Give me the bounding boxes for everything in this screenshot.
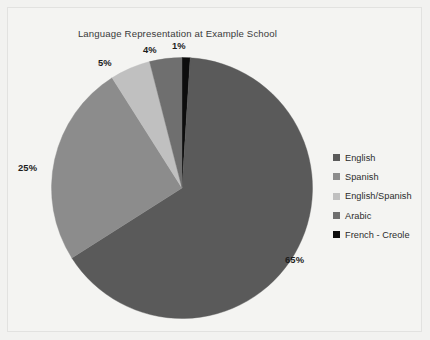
legend-item[interactable]: Arabic bbox=[333, 206, 428, 225]
legend-swatch-icon bbox=[333, 212, 340, 219]
chart-legend: EnglishSpanishEnglish/SpanishArabicFrenc… bbox=[333, 148, 428, 244]
legend-item-label: English bbox=[345, 153, 375, 163]
slice-value-label-arabic: 4% bbox=[143, 44, 157, 55]
legend-item[interactable]: English bbox=[333, 148, 428, 167]
legend-swatch-icon bbox=[333, 193, 340, 200]
slice-value-label-english-spanish: 5% bbox=[98, 57, 112, 68]
slice-value-label-english: 65% bbox=[285, 254, 304, 265]
chart-canvas: Language Representation at Example Schoo… bbox=[0, 0, 430, 340]
legend-item-label: French - Creole bbox=[345, 230, 410, 240]
legend-item-label: Spanish bbox=[345, 172, 379, 182]
slice-value-label-french-creole: 1% bbox=[172, 40, 186, 51]
page-title: Language Representation at Example Schoo… bbox=[0, 28, 355, 39]
pie-slice-group bbox=[52, 58, 313, 319]
legend-item-label: Arabic bbox=[345, 211, 371, 221]
pie-chart-svg bbox=[51, 57, 313, 319]
legend-item[interactable]: Spanish bbox=[333, 167, 428, 186]
pie-chart bbox=[51, 57, 313, 319]
legend-swatch-icon bbox=[333, 154, 340, 161]
legend-item[interactable]: English/Spanish bbox=[333, 187, 428, 206]
legend-swatch-icon bbox=[333, 231, 340, 238]
legend-swatch-icon bbox=[333, 173, 340, 180]
legend-item-label: English/Spanish bbox=[345, 191, 412, 201]
slice-value-label-spanish: 25% bbox=[18, 162, 37, 173]
legend-item[interactable]: French - Creole bbox=[333, 225, 428, 244]
